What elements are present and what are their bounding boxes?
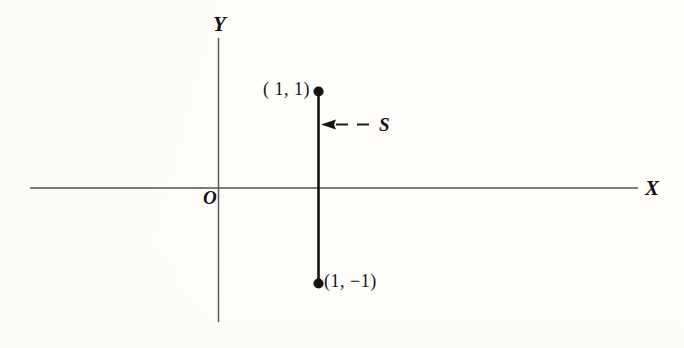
y-axis-label: Y — [213, 14, 226, 35]
segment-s-label: S — [379, 115, 390, 134]
s-leader-arrowhead-icon — [321, 120, 336, 130]
point-label-1-neg1: (1, −1) — [324, 272, 377, 290]
figure-canvas: Y X O S ( 1, 1) (1, −1) — [0, 0, 684, 348]
x-axis-label: X — [645, 178, 659, 199]
point-marker-1-1 — [313, 86, 323, 96]
point-label-1-1: ( 1, 1) — [263, 80, 310, 98]
origin-label: O — [203, 188, 217, 207]
point-marker-1-neg1 — [313, 278, 323, 288]
diagram-svg — [0, 0, 684, 348]
